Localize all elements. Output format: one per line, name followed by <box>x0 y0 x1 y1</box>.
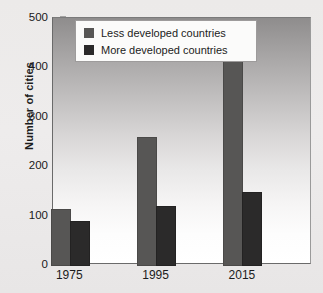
bar <box>137 137 157 266</box>
bar <box>223 49 243 266</box>
x-tick-label: 1995 <box>142 268 169 282</box>
bar-chart-figure: Number of cities 0100200300400500 197519… <box>0 0 323 293</box>
bar <box>70 221 90 266</box>
legend-label: More developed countries <box>101 44 228 56</box>
y-tick-label: 100 <box>14 209 48 221</box>
y-tick-label: 200 <box>14 159 48 171</box>
legend-item: More developed countries <box>84 42 250 58</box>
y-tick-label: 300 <box>14 110 48 122</box>
bar <box>156 206 176 266</box>
chart-legend: Less developed countriesMore developed c… <box>75 20 257 62</box>
bar <box>242 192 262 266</box>
legend-swatch-icon <box>84 28 94 38</box>
bar <box>51 209 71 266</box>
x-tick-label: 1975 <box>56 268 83 282</box>
y-tick-label: 500 <box>14 11 48 23</box>
legend-swatch-icon <box>84 45 94 55</box>
y-axis-tick-labels: 0100200300400500 <box>12 0 48 293</box>
x-tick-label: 2015 <box>229 268 256 282</box>
y-tick-label: 400 <box>14 60 48 72</box>
y-tick-label: 0 <box>14 258 48 270</box>
legend-item: Less developed countries <box>84 25 250 41</box>
legend-label: Less developed countries <box>101 27 226 39</box>
